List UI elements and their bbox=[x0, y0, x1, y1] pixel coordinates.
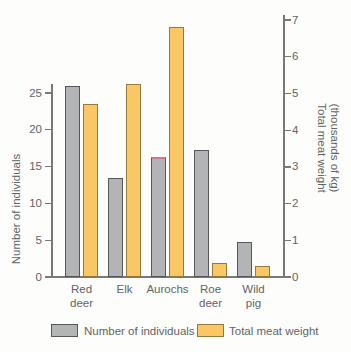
category-label-aurochs: Aurochs bbox=[146, 283, 188, 297]
legend-label-individuals: Number of individuals bbox=[84, 325, 195, 338]
chart-figure: Number of individuals Total meat weight … bbox=[0, 0, 351, 352]
right-axis-line bbox=[283, 15, 285, 278]
right-axis-title-line1: Total meat weight bbox=[316, 103, 328, 193]
left-axis-tick bbox=[45, 276, 52, 277]
right-axis-tick bbox=[284, 19, 291, 20]
right-axis-tick bbox=[284, 93, 291, 94]
left-axis-line bbox=[51, 84, 53, 277]
left-axis-tick-label: 15 bbox=[16, 160, 42, 173]
bar-meat-weight-wild-pig bbox=[255, 266, 270, 277]
right-axis-title-line2: (thousands of kg) bbox=[329, 104, 341, 193]
bar-individuals-wild-pig bbox=[237, 242, 252, 277]
left-axis-tick-label: 0 bbox=[16, 271, 42, 284]
legend: Number of individuals Total meat weight bbox=[0, 318, 351, 348]
right-axis-tick-label: 6 bbox=[292, 50, 298, 63]
bar-individuals-aurochs bbox=[151, 157, 166, 277]
right-axis-tick-label: 5 bbox=[292, 87, 298, 100]
right-axis-tick bbox=[284, 276, 291, 277]
category-label-red-deer: Red deer bbox=[70, 283, 93, 310]
bar-meat-weight-elk bbox=[126, 84, 141, 277]
right-axis-tick bbox=[284, 240, 291, 241]
right-axis-tick-label: 1 bbox=[292, 234, 298, 247]
left-axis-tick bbox=[45, 166, 52, 167]
left-axis-tick bbox=[45, 203, 52, 204]
bar-meat-weight-red-deer bbox=[83, 104, 98, 277]
left-axis-tick-label: 20 bbox=[16, 123, 42, 136]
left-axis-tick bbox=[45, 129, 52, 130]
right-axis-tick bbox=[284, 56, 291, 57]
bar-meat-weight-roe-deer bbox=[212, 263, 227, 277]
category-label-roe-deer: Roe deer bbox=[199, 283, 222, 310]
right-axis-tick-label: 7 bbox=[292, 14, 298, 27]
left-axis-tick bbox=[45, 240, 52, 241]
right-axis-tick-label: 0 bbox=[292, 271, 298, 284]
right-axis-tick bbox=[284, 166, 291, 167]
left-axis-tick-label: 5 bbox=[16, 234, 42, 247]
left-axis-tick-label: 10 bbox=[16, 197, 42, 210]
right-axis-tick-label: 2 bbox=[292, 197, 298, 210]
category-label-elk: Elk bbox=[117, 283, 133, 297]
bar-individuals-elk bbox=[108, 178, 123, 277]
bar-meat-weight-aurochs bbox=[169, 27, 184, 277]
right-axis-tick-label: 3 bbox=[292, 160, 298, 173]
legend-swatch-individuals bbox=[51, 324, 78, 337]
right-axis-tick-label: 4 bbox=[292, 124, 298, 137]
bar-individuals-red-deer bbox=[65, 86, 80, 277]
left-axis-tick-label: 25 bbox=[16, 87, 42, 100]
bar-individuals-roe-deer bbox=[194, 150, 209, 277]
right-axis-tick bbox=[284, 203, 291, 204]
right-axis-tick bbox=[284, 130, 291, 131]
left-axis-tick bbox=[45, 92, 52, 93]
category-label-wild-pig: Wild pig bbox=[242, 283, 264, 310]
legend-swatch-meat bbox=[197, 324, 224, 337]
legend-label-meat: Total meat weight bbox=[229, 325, 319, 338]
